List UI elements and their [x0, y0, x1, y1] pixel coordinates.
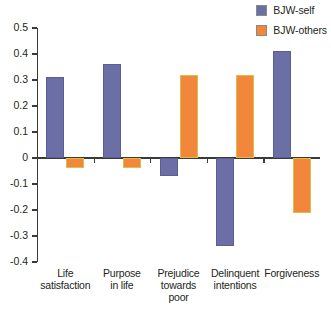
y-axis-tick-label: -0.4	[0, 256, 28, 267]
y-axis-tick-label: -0.2	[0, 204, 28, 215]
legend-label-bjw-self: BJW-self	[273, 4, 314, 16]
bar-bjw-self	[273, 51, 291, 158]
y-axis-tick	[32, 183, 37, 184]
y-axis-tick	[32, 131, 37, 132]
category-label-line: poor	[144, 291, 213, 303]
x-axis-tick	[150, 158, 151, 163]
y-axis-tick	[32, 53, 37, 54]
legend-swatch-bjw-self	[256, 5, 267, 16]
bar-bjw-others	[123, 158, 141, 168]
bar-bjw-others	[293, 158, 311, 213]
y-axis-tick-label: 0.4	[0, 48, 28, 59]
category-label-line: intentions	[201, 279, 270, 291]
y-axis-tick-label: 0.3	[0, 74, 28, 85]
x-axis-tick	[94, 158, 95, 163]
x-axis-category-label: Forgiveness	[257, 267, 326, 279]
y-axis-tick	[32, 79, 37, 80]
y-axis-tick	[32, 209, 37, 210]
category-label-line: Forgiveness	[257, 267, 326, 279]
bar-bjw-self	[103, 64, 121, 158]
plot-area: 0.50.40.30.20.10-0.1-0.2-0.3-0.4	[37, 28, 320, 262]
bar-bjw-self	[46, 77, 64, 158]
y-axis-tick-label: 0	[0, 152, 28, 163]
y-axis-tick-label: 0.1	[0, 126, 28, 137]
y-axis-tick	[32, 105, 37, 106]
y-axis-tick	[32, 235, 37, 236]
y-axis-tick-label: -0.3	[0, 230, 28, 241]
y-axis-line	[37, 28, 38, 262]
y-axis-tick-label: 0.2	[0, 100, 28, 111]
bar-bjw-others	[180, 75, 198, 158]
y-axis-tick	[32, 27, 37, 28]
bar-bjw-others	[236, 75, 254, 158]
bar-bjw-others	[66, 158, 84, 168]
bar-bjw-self	[160, 158, 178, 176]
bar-chart: BJW-self BJW-others 0.50.40.30.20.10-0.1…	[0, 0, 331, 317]
legend-item-bjw-self: BJW-self	[256, 2, 327, 18]
x-axis-tick	[207, 158, 208, 163]
y-axis-tick	[32, 261, 37, 262]
y-axis-tick-label: 0.5	[0, 22, 28, 33]
bar-bjw-self	[216, 158, 234, 246]
y-axis-tick-label: -0.1	[0, 178, 28, 189]
x-axis-tick	[263, 158, 264, 163]
